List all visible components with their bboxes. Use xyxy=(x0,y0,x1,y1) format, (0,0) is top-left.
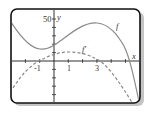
x-tick-label-neg1: -1 xyxy=(34,64,41,73)
calculator-graph: 50 y x -1 1 3 f f′ xyxy=(0,0,152,117)
y-tick-label-50: 50 xyxy=(43,14,52,24)
y-axis-label: y xyxy=(56,12,61,22)
x-tick-label-3: 3 xyxy=(95,64,99,73)
x-axis-label: x xyxy=(131,51,136,61)
x-tick-label-1: 1 xyxy=(67,64,71,73)
screen-frame xyxy=(11,9,140,103)
curve-f-prime-label: f′ xyxy=(82,44,86,54)
